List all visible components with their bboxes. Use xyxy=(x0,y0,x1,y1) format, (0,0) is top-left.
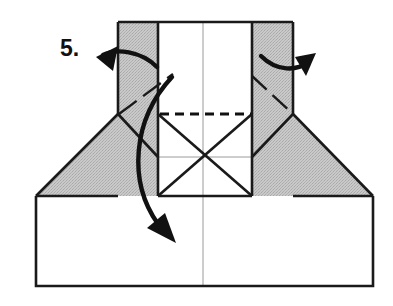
step-number-label: 5. xyxy=(60,35,79,61)
center-white-panel xyxy=(158,22,252,196)
origami-step-diagram: 5. xyxy=(0,0,393,306)
bottom-base-panel xyxy=(36,196,373,286)
origami-diagram-page: 5. xyxy=(0,0,393,306)
